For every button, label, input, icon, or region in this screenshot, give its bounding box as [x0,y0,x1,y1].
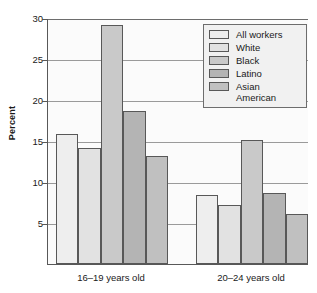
bar [286,214,308,264]
bar [218,205,240,264]
bar [263,193,285,264]
legend-swatch-icon [209,43,229,52]
bar [241,140,263,264]
legend-item[interactable]: Latino [209,68,300,79]
y-tick-label-10: 10 [17,178,43,187]
legend-item-label: All workers [236,29,282,40]
legend-item[interactable]: Black [209,55,300,66]
legend-item-label: Latino [236,68,262,79]
bar [196,195,218,264]
legend-swatch-icon [209,69,229,78]
y-axis-title: Percent [7,93,17,153]
y-tick-label-20: 20 [17,96,43,105]
legend-swatch-icon [209,56,229,65]
y-tick-label-30: 30 [17,14,43,23]
bar-chart: Percent 51015202530 16–19 years old20–24… [0,0,317,293]
x-group-label: 16–19 years old [41,272,181,283]
legend-swatch-icon [209,30,229,39]
bar [56,134,78,264]
legend-item[interactable]: Asian American [209,81,300,103]
legend-item[interactable]: All workers [209,29,300,40]
bar [101,25,123,264]
legend-item[interactable]: White [209,42,300,53]
legend-item-label: Black [236,55,259,66]
y-tick-label-15: 15 [17,137,43,146]
legend-item-label: White [236,42,260,53]
bar [146,156,168,264]
legend-swatch-icon [209,82,229,91]
legend-item-label: Asian American [236,81,276,103]
bar [78,148,100,264]
legend: All workersWhiteBlackLatinoAsian America… [203,24,307,108]
bar [123,111,145,264]
x-group-label: 20–24 years old [181,272,317,283]
y-tick-label-25: 25 [17,55,43,64]
y-tick-label-5: 5 [17,219,43,228]
